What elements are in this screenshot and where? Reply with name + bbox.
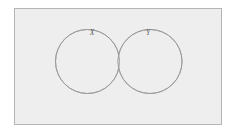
set-label-x: X [89,28,95,37]
venn-diagram-canvas: X Y [0,0,236,133]
venn-diagram-figure: X Y [0,0,236,133]
